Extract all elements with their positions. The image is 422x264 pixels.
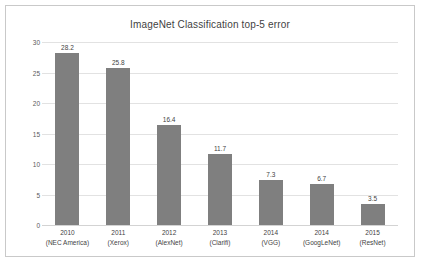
y-tick-label-0: 0 [18, 222, 40, 229]
x-tick-team: (ResNet) [347, 238, 398, 248]
bar-slot: 3.5 [347, 42, 398, 225]
bar-resnet[interactable] [361, 204, 385, 225]
bar-value-label: 3.5 [368, 195, 377, 202]
x-tick-team: (NEC America) [42, 238, 93, 248]
x-tick-year: 2013 [195, 228, 246, 238]
bar-alexnet[interactable] [157, 125, 181, 225]
x-tick-year: 2010 [42, 228, 93, 238]
bar-slot: 16.4 [144, 42, 195, 225]
x-axis: 2010(NEC America)2011(Xerox)2012(AlexNet… [42, 228, 398, 256]
x-tick-year: 2014 [296, 228, 347, 238]
bar-nec-america[interactable] [55, 53, 79, 225]
x-tick-label: 2011(Xerox) [93, 228, 144, 248]
x-tick-year: 2011 [93, 228, 144, 238]
bar-xerox[interactable] [106, 68, 130, 225]
y-tick-label-10: 10 [18, 161, 40, 168]
bar-slot: 6.7 [296, 42, 347, 225]
x-tick-year: 2014 [245, 228, 296, 238]
bar-value-label: 7.3 [266, 171, 275, 178]
bar-googlenet[interactable] [310, 184, 334, 225]
x-tick-team: (Xerox) [93, 238, 144, 248]
x-tick-team: (VGG) [245, 238, 296, 248]
bar-slot: 11.7 [195, 42, 246, 225]
x-tick-label: 2015(ResNet) [347, 228, 398, 248]
bar-value-label: 11.7 [214, 145, 226, 152]
x-tick-team: (AlexNet) [144, 238, 195, 248]
y-tick-label-30: 30 [18, 39, 40, 46]
x-tick-year: 2015 [347, 228, 398, 238]
bar-value-label: 25.8 [112, 59, 125, 66]
chart-container: ImageNet Classification top-5 error 0510… [5, 5, 415, 257]
gridline-0 [42, 225, 398, 226]
y-tick-label-5: 5 [18, 191, 40, 198]
x-tick-team: (GoogLeNet) [296, 238, 347, 248]
x-tick-year: 2012 [144, 228, 195, 238]
bar-clarifi[interactable] [208, 154, 232, 225]
x-tick-label: 2012(AlexNet) [144, 228, 195, 248]
y-tick-label-20: 20 [18, 100, 40, 107]
chart-title: ImageNet Classification top-5 error [6, 19, 414, 30]
x-tick-label: 2010(NEC America) [42, 228, 93, 248]
bar-vgg[interactable] [259, 180, 283, 225]
bar-value-label: 16.4 [163, 116, 176, 123]
y-axis: 051015202530 [14, 42, 40, 225]
x-tick-team: (Clarifi) [195, 238, 246, 248]
x-tick-label: 2014(VGG) [245, 228, 296, 248]
bar-slot: 25.8 [93, 42, 144, 225]
bar-value-label: 28.2 [61, 44, 74, 51]
y-tick-label-15: 15 [18, 130, 40, 137]
x-tick-label: 2014(GoogLeNet) [296, 228, 347, 248]
x-tick-label: 2013(Clarifi) [195, 228, 246, 248]
bar-slot: 28.2 [42, 42, 93, 225]
bar-value-label: 6.7 [317, 175, 326, 182]
plot-area: 28.225.816.411.77.36.73.5 [42, 42, 398, 225]
bar-slot: 7.3 [245, 42, 296, 225]
y-tick-label-25: 25 [18, 69, 40, 76]
